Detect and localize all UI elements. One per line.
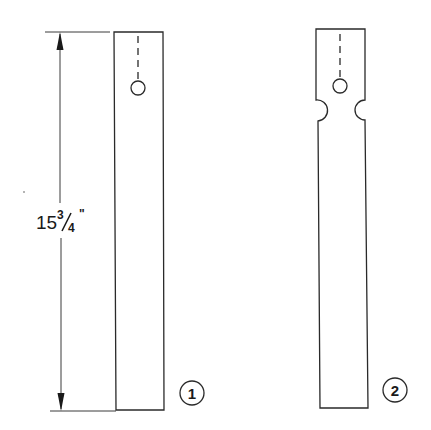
part-1-strip — [114, 32, 164, 410]
strip-2-outline — [316, 29, 368, 408]
callout-label-1: 1 — [188, 385, 196, 402]
dimension-unit-mark: " — [79, 207, 85, 221]
dimension-numerator: 3 — [57, 208, 64, 222]
strip-1-hole — [131, 81, 145, 95]
dimension-whole: 15 — [36, 212, 57, 233]
stray-mark — [23, 191, 25, 193]
arrowhead-down-icon — [58, 393, 65, 411]
dimension-denominator: 4 — [68, 221, 75, 235]
strip-1-outline — [114, 32, 164, 410]
arrowhead-up-icon — [57, 32, 64, 50]
part-2-strip — [316, 29, 368, 408]
part-1-callout: 1 — [180, 381, 204, 405]
callout-label-2: 2 — [391, 382, 399, 399]
part-2-callout: 2 — [383, 378, 407, 402]
strip-2-hole — [333, 79, 347, 93]
technical-diagram: 15 3 4 " 1 2 — [0, 0, 431, 430]
